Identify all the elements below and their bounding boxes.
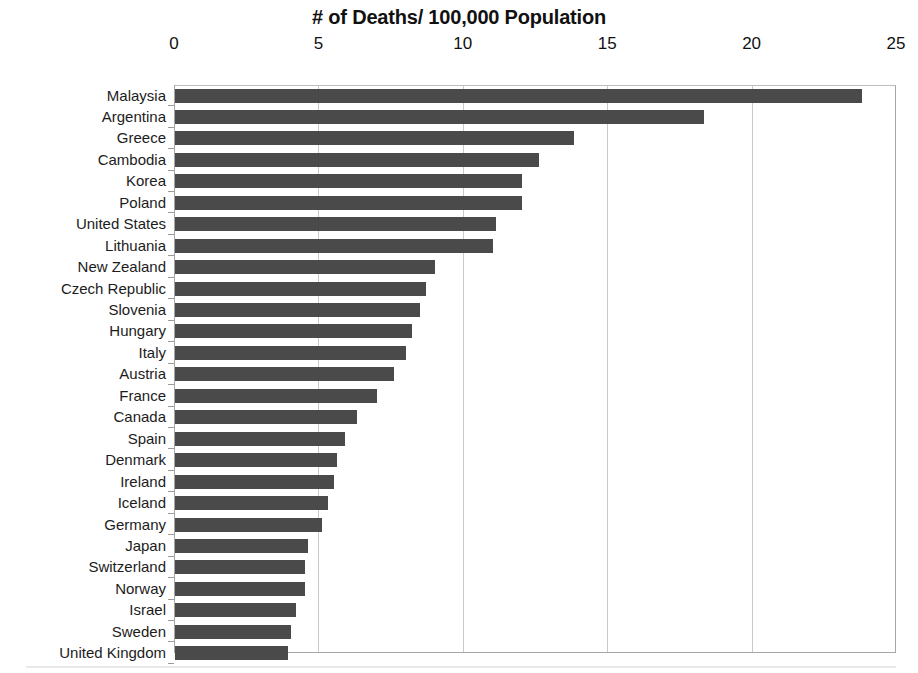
- category-label-germany: Germany: [104, 517, 166, 533]
- bar-canada: [175, 410, 357, 424]
- x-tick-label-25: 25: [887, 34, 906, 54]
- category-label-greece: Greece: [117, 130, 166, 146]
- bar-czech-republic: [175, 282, 426, 296]
- category-label-lithuania: Lithuania: [105, 238, 166, 254]
- chart-title: # of Deaths/ 100,000 Population: [0, 6, 918, 29]
- bar-france: [175, 389, 377, 403]
- bar-japan: [175, 539, 308, 553]
- bar-austria: [175, 367, 394, 381]
- x-axis-tick-labels: 0510152025: [0, 34, 918, 60]
- bar-united-states: [175, 217, 496, 231]
- bar-cambodia: [175, 153, 539, 167]
- category-label-japan: Japan: [125, 538, 166, 554]
- bar-switzerland: [175, 560, 305, 574]
- bar-poland: [175, 196, 522, 210]
- category-label-france: France: [119, 388, 166, 404]
- bar-lithuania: [175, 239, 493, 253]
- category-label-united-states: United States: [76, 216, 166, 232]
- scan-artifact: [26, 666, 896, 668]
- x-tick-label-5: 5: [314, 34, 323, 54]
- bar-united-kingdom: [175, 646, 288, 660]
- x-tick-label-20: 20: [742, 34, 761, 54]
- x-tick-label-0: 0: [169, 34, 178, 54]
- category-label-new-zealand: New Zealand: [78, 259, 166, 275]
- bar-chart-figure: # of Deaths/ 100,000 Population 05101520…: [0, 0, 918, 673]
- category-label-spain: Spain: [128, 431, 166, 447]
- category-label-ireland: Ireland: [120, 474, 166, 490]
- bar-greece: [175, 131, 574, 145]
- x-tick-label-15: 15: [598, 34, 617, 54]
- bar-germany: [175, 518, 322, 532]
- category-label-italy: Italy: [138, 345, 166, 361]
- category-label-malaysia: Malaysia: [107, 88, 166, 104]
- category-label-israel: Israel: [129, 602, 166, 618]
- category-label-switzerland: Switzerland: [88, 559, 166, 575]
- bar-italy: [175, 346, 406, 360]
- category-label-czech-republic: Czech Republic: [61, 281, 166, 297]
- bar-slovenia: [175, 303, 420, 317]
- category-label-slovenia: Slovenia: [108, 302, 166, 318]
- bar-sweden: [175, 625, 291, 639]
- bar-korea: [175, 174, 522, 188]
- category-label-sweden: Sweden: [112, 624, 166, 640]
- category-label-korea: Korea: [126, 173, 166, 189]
- bar-hungary: [175, 324, 412, 338]
- category-label-poland: Poland: [119, 195, 166, 211]
- category-label-cambodia: Cambodia: [98, 152, 166, 168]
- category-axis-labels: MalaysiaArgentinaGreeceCambodiaKoreaPola…: [0, 85, 166, 653]
- x-tick-label-10: 10: [453, 34, 472, 54]
- category-label-austria: Austria: [119, 366, 166, 382]
- bar-ireland: [175, 475, 334, 489]
- bar-iceland: [175, 496, 328, 510]
- bar-new-zealand: [175, 260, 435, 274]
- category-label-canada: Canada: [113, 409, 166, 425]
- category-label-iceland: Iceland: [118, 495, 166, 511]
- category-label-denmark: Denmark: [105, 452, 166, 468]
- category-label-united-kingdom: United Kingdom: [59, 645, 166, 661]
- bar-spain: [175, 432, 345, 446]
- bar-norway: [175, 582, 305, 596]
- bars-layer: [175, 85, 895, 653]
- bar-malaysia: [175, 89, 862, 103]
- category-label-argentina: Argentina: [102, 109, 166, 125]
- category-label-norway: Norway: [115, 581, 166, 597]
- category-label-hungary: Hungary: [109, 323, 166, 339]
- category-tick-26: [168, 663, 174, 664]
- bar-denmark: [175, 453, 337, 467]
- bar-israel: [175, 603, 296, 617]
- bar-argentina: [175, 110, 704, 124]
